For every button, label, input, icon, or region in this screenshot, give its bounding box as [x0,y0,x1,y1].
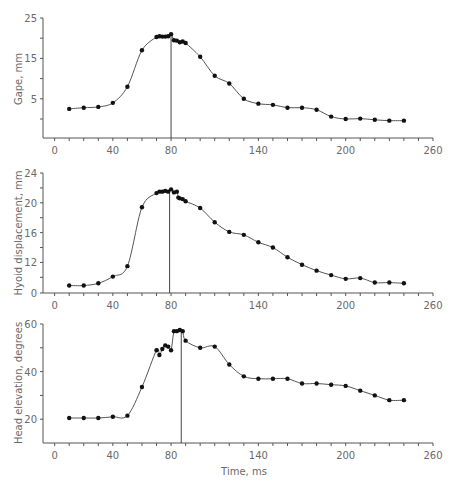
data-point [198,206,202,210]
data-point [387,398,391,402]
data-point [96,105,100,109]
data-point [242,97,246,101]
y-tick-label: 20 [24,198,37,209]
data-point [213,74,217,78]
data-point [314,268,318,272]
data-point [314,381,318,385]
x-tick-label: 140 [249,450,268,461]
data-point [387,118,391,122]
data-point [343,117,347,121]
data-point [329,382,333,386]
x-tick-label: 40 [106,450,119,461]
x-tick-label: 140 [249,145,268,156]
data-point [358,388,362,392]
data-point [256,101,260,105]
time-axis-label: Time, ms [220,466,267,477]
data-point [242,233,246,237]
x-tick-label: 0 [51,145,57,156]
data-point [285,255,289,259]
data-point [96,281,100,285]
data-point [314,108,318,112]
data-point [387,280,391,284]
y-tick-label: 16 [24,228,37,239]
data-point [242,374,246,378]
data-point [256,377,260,381]
x-tick-label: 200 [336,300,355,311]
x-tick-label: 260 [423,300,442,311]
data-point [169,348,173,352]
x-tick-label: 40 [106,300,119,311]
data-point [227,81,231,85]
data-point [300,381,304,385]
x-tick-label: 80 [165,450,178,461]
x-tick-label: 0 [51,450,57,461]
data-point [227,230,231,234]
y-tick-label: 0 [31,288,37,299]
data-point [67,416,71,420]
data-point [125,413,129,417]
data-point [175,189,179,193]
data-point [111,274,115,278]
x-tick-label: 80 [165,300,178,311]
data-point [181,329,185,333]
data-point [183,338,187,342]
data-point [198,55,202,59]
data-point [111,415,115,419]
x-tick-label: 200 [336,450,355,461]
data-point [358,276,362,280]
head-curve [69,330,404,418]
data-point [285,377,289,381]
data-point [96,416,100,420]
x-tick-label: 140 [249,300,268,311]
y-tick-label: 20 [24,414,37,425]
data-point [271,377,275,381]
data-point [169,32,173,36]
data-point [183,41,187,45]
data-point [329,273,333,277]
data-point [154,348,158,352]
data-point [213,220,217,224]
data-point [300,262,304,266]
x-tick-label: 0 [51,300,57,311]
data-point [183,199,187,203]
data-point [285,105,289,109]
y-tick-label: 24 [24,168,37,179]
data-point [67,283,71,287]
head-elevation-panel: 04080140200260204060 [24,319,442,461]
data-point [140,48,144,52]
data-point [373,280,377,284]
data-point [157,353,161,357]
data-point [160,347,164,351]
data-point [213,344,217,348]
data-point [82,416,86,420]
data-point [227,362,231,366]
figure: 0408014020026051525 04080140200260012162… [0,0,453,481]
data-point [140,205,144,209]
data-point [271,103,275,107]
hyoid-curve [69,189,404,285]
y-tick-label: 60 [24,319,37,330]
data-point [343,384,347,388]
y-tick-label: 40 [24,367,37,378]
data-point [373,393,377,397]
y-tick-label: 5 [31,94,37,105]
data-point [300,105,304,109]
data-point [82,105,86,109]
x-tick-label: 200 [336,145,355,156]
data-point [111,101,115,105]
x-tick-label: 260 [423,450,442,461]
data-point [140,385,144,389]
y-tick-label: 25 [24,13,37,24]
hyoid-axis-label: Hyoid displacement, mm [13,170,24,295]
data-point [358,116,362,120]
data-point [125,84,129,88]
head-axis-label: Head elevation, degrees [13,322,24,444]
y-tick-label: 15 [24,53,37,64]
x-tick-label: 80 [165,145,178,156]
data-point [125,264,129,268]
data-point [198,346,202,350]
data-point [271,245,275,249]
data-point [82,283,86,287]
data-point [343,277,347,281]
data-point [402,281,406,285]
